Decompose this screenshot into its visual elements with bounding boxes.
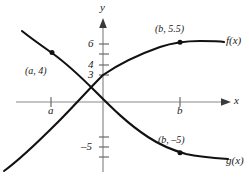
point-marker-b-5-5	[178, 40, 183, 45]
point-marker-a-4	[50, 50, 55, 55]
x-axis-label: x	[234, 95, 239, 106]
graph-plot-area	[0, 0, 249, 177]
y-tick-label-neg5: –5	[81, 141, 92, 152]
y-axis-arrow-icon	[99, 18, 107, 28]
curve-label-g: g(x)	[226, 155, 244, 166]
annotation-point-a-4: (a, 4)	[25, 66, 47, 76]
point-marker-b-neg5	[178, 150, 183, 155]
x-tick-label-a: a	[48, 105, 54, 116]
curve-f-of-x	[4, 41, 224, 171]
figure-canvas: y x 6 4 3 –5 a b (a, 4) (b, 5.5) (b, –5)…	[0, 0, 249, 177]
x-axis-arrow-icon	[221, 98, 231, 106]
x-tick-label-b: b	[177, 105, 183, 116]
annotation-point-b-5-5: (b, 5.5)	[155, 24, 184, 34]
curve-label-f: f(x)	[226, 35, 241, 46]
y-tick-label-6: 6	[88, 38, 94, 49]
annotation-point-b-neg5: (b, –5)	[158, 135, 185, 145]
y-tick-label-3: 3	[88, 69, 94, 80]
y-axis-label: y	[100, 2, 105, 13]
